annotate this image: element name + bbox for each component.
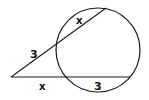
label-upper-internal: x [76,15,83,26]
label-lower-external: x [39,81,46,92]
label-lower-internal: 3 [94,80,102,93]
upper-secant [11,8,106,77]
label-upper-external: 3 [30,48,38,61]
secant-diagram: 3 x x 3 [0,0,149,100]
